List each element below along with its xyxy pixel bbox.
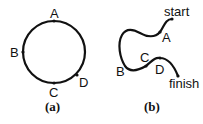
start-label: start: [164, 4, 190, 19]
point-a-label: A: [162, 30, 171, 45]
finish-label: finish: [169, 76, 199, 91]
panel-a: A B C D (a): [10, 6, 88, 114]
panel-b: start A B C D finish (b): [116, 4, 199, 114]
point-c-label: C: [49, 85, 58, 100]
point-d-marker: [158, 56, 161, 59]
point-c-label: C: [140, 50, 149, 65]
point-a-label: A: [50, 6, 59, 21]
circular-path: [23, 21, 85, 83]
path-diagram: A B C D (a) start A B C D finish (b): [0, 0, 203, 124]
point-b-label: B: [116, 64, 125, 79]
curved-path: [119, 19, 178, 76]
point-b-marker: [21, 50, 24, 53]
point-d-label: D: [79, 75, 88, 90]
point-b-label: B: [10, 45, 19, 60]
point-d-label: D: [155, 62, 164, 77]
panel-a-caption: (a): [45, 99, 60, 114]
panel-b-caption: (b): [144, 99, 160, 114]
